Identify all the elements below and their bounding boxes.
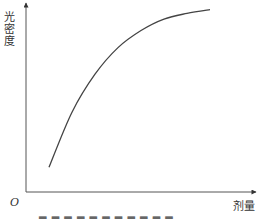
figure-caption: ▬ ▬ ▬ ▬ ▬ ▬ ▬ ▬ ▬ ▬ ▬ — [38, 213, 238, 219]
y-axis-label: 光密度 — [2, 12, 16, 48]
chart-canvas — [0, 0, 262, 219]
origin-label: O — [10, 196, 19, 209]
dose-density-curve — [49, 10, 210, 168]
x-axis-label: 剂量 — [233, 197, 255, 213]
